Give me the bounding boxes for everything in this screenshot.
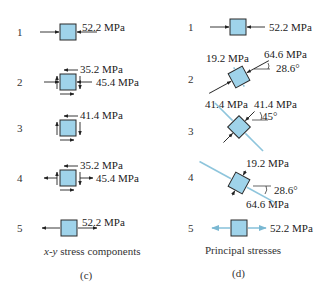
tension-line <box>199 161 231 178</box>
stress-label: 52.2 MPa <box>82 216 125 228</box>
panel-d-caption: Principal stresses <box>205 244 281 256</box>
panel-c-caption: x-y stress components <box>43 245 141 257</box>
compression-arrow-bottom <box>232 191 234 195</box>
stress-label: 52.2 MPa <box>269 21 312 33</box>
tension-line <box>245 133 263 151</box>
compression-arrow-top <box>245 111 254 120</box>
panel-c-row-5: 5 52.2 MPa <box>17 216 125 236</box>
normal-label: 45.4 MPa <box>96 76 139 88</box>
tension-tick-bottom <box>243 85 244 87</box>
principal-stress-label-min: 19.2 MPa <box>206 52 249 64</box>
panel-c-label: (c) <box>80 269 93 282</box>
panel-d-label: (d) <box>232 267 245 280</box>
stress-element <box>60 74 76 90</box>
stress-element <box>60 170 76 186</box>
row-number: 1 <box>17 26 23 38</box>
angle-arc <box>265 186 267 194</box>
angle-label: 28.6° <box>274 184 298 196</box>
row-number: 5 <box>17 222 23 234</box>
panel-d-row-1: 1 52.2 MPa <box>188 19 312 35</box>
shear-label: 41.4 MPa <box>80 109 123 121</box>
angle-label: 28.6° <box>276 62 300 74</box>
panel-c-row-2: 2 35.2 MPa 45.4 MPa <box>17 63 139 94</box>
principal-stress-label-min: 19.2 MPa <box>246 157 289 169</box>
panel-d-row-2: 2 19.2 MPa 64.6 MPa 28.6° <box>188 48 307 103</box>
panel-c-row-3: 3 41.4 MPa <box>17 109 123 140</box>
stress-element <box>60 24 76 40</box>
principal-stress-label-compression: 41.4 MPa <box>254 98 297 110</box>
stress-element <box>60 120 76 136</box>
panel-d-row-5: 5 52.2 MPa <box>188 220 313 236</box>
row-number: 5 <box>188 222 194 234</box>
panel-c-row-1: 1 52.2 MPa <box>17 21 125 40</box>
normal-label: 45.4 MPa <box>96 172 139 184</box>
panel-d: 1 52.2 MPa 2 19.2 MPa 64.6 MPa 28.6° 3 <box>188 19 313 280</box>
row-number: 1 <box>188 21 194 33</box>
angle-arc <box>268 63 269 69</box>
stress-element <box>231 220 247 236</box>
stress-label: 52.2 MPa <box>270 222 313 234</box>
stress-element <box>228 172 250 194</box>
stress-label: 52.2 MPa <box>82 21 125 33</box>
row-number: 4 <box>17 172 23 184</box>
panel-d-row-4: 4 19.2 MPa 28.6° 64.6 MPa <box>188 149 298 214</box>
row-number: 2 <box>17 76 23 88</box>
compression-arrow-top <box>243 171 245 175</box>
stress-element <box>228 66 250 88</box>
row-number: 3 <box>188 125 194 137</box>
stress-elements-figure: 1 52.2 MPa 2 35.2 MPa 45.4 MPa 3 <box>0 0 328 294</box>
stress-element <box>61 220 77 236</box>
compression-arrow-bottom <box>223 133 232 142</box>
row-number: 3 <box>17 122 23 134</box>
tension-tick-top <box>234 67 235 69</box>
panel-c: 1 52.2 MPa 2 35.2 MPa 45.4 MPa 3 <box>17 21 141 282</box>
compression-arrow-left <box>209 81 231 93</box>
stress-element <box>230 19 246 35</box>
compression-arrow-right <box>247 61 269 73</box>
row-number: 2 <box>188 73 194 85</box>
shear-label: 35.2 MPa <box>80 159 123 171</box>
principal-stress-label-max: 64.6 MPa <box>264 48 307 60</box>
shear-label: 35.2 MPa <box>80 63 123 75</box>
panel-c-row-4: 4 35.2 MPa 45.4 MPa <box>17 159 139 190</box>
row-number: 4 <box>188 171 194 183</box>
principal-stress-label-tension: 41.4 MPa <box>205 98 248 110</box>
panel-d-row-3: 3 41.4 MPa 41.4 MPa 45° <box>188 87 297 166</box>
principal-stress-label-max: 64.6 MPa <box>246 198 289 210</box>
